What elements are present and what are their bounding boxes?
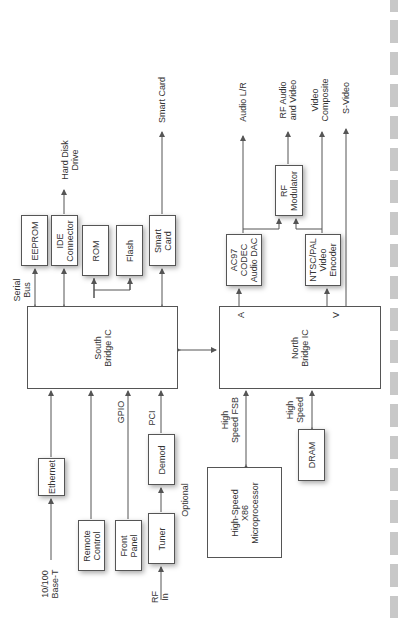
- dram-block: DRAM: [298, 429, 325, 481]
- remote-control-block: Remote Control: [78, 520, 105, 571]
- rf-modulator-block: RF Modulator: [275, 165, 303, 216]
- microprocessor-label: High-Speed X86 Microprocessor: [230, 482, 260, 544]
- ac97-codec-block: AC97 CODEC Audio DAC: [226, 234, 262, 286]
- ethernet-label: Ethernet: [47, 460, 57, 494]
- front-panel-block: Front Panel: [115, 520, 142, 571]
- demod-label: Demod: [157, 445, 167, 474]
- port-a-label: A: [236, 312, 246, 318]
- rom-block: ROM: [82, 225, 109, 276]
- ac97-codec-label: AC97 CODEC Audio DAC: [229, 238, 259, 283]
- ethernet-block: Ethernet: [38, 458, 65, 496]
- remote-control-label: Remote Control: [82, 530, 102, 562]
- rom-label: ROM: [91, 240, 101, 261]
- demod-block: Demod: [148, 434, 175, 485]
- south-bridge-label: South Bridge IC: [93, 329, 113, 367]
- front-panel-label: Front Panel: [119, 534, 139, 557]
- flash-block: Flash: [116, 225, 143, 276]
- high-speed-fsb-label: High Speed FSB: [220, 397, 240, 443]
- eeprom-block: EEPROM: [21, 215, 48, 266]
- rf-audio-video-label: RF Audio and Video: [278, 80, 298, 120]
- rf-in-label: RF In: [150, 591, 170, 603]
- optional-label: Optional: [180, 483, 190, 517]
- tuner-block: Tuner: [148, 513, 175, 564]
- north-bridge-label: North Bridge IC: [290, 329, 310, 367]
- smart-card-block: Smart Card: [149, 215, 176, 266]
- south-bridge-block: South Bridge IC: [27, 306, 178, 389]
- smart-card-output-label: Smart Card: [157, 77, 167, 123]
- microprocessor-block: High-Speed X86 Microprocessor: [207, 467, 282, 558]
- gpio-label: GPIO: [116, 401, 126, 424]
- high-speed-dram-label: High Speed: [285, 397, 305, 423]
- smart-card-label: Smart Card: [153, 228, 173, 252]
- video-composite-label: Video Composite: [310, 78, 330, 121]
- ide-connector-label: IDE Connector: [55, 220, 75, 262]
- s-video-label: S-Video: [341, 82, 351, 114]
- flash-label: Flash: [125, 239, 135, 261]
- serial-bus-label: Serial Bus: [12, 278, 32, 301]
- hard-disk-drive-label: Hard Disk Drive: [60, 140, 80, 180]
- tuner-label: Tuner: [157, 527, 167, 550]
- ntsc-pal-encoder-label: NTSC/PAL Video Encoder: [308, 238, 338, 281]
- ntsc-pal-encoder-block: NTSC/PAL Video Encoder: [305, 234, 341, 286]
- ide-connector-block: IDE Connector: [51, 215, 78, 266]
- dram-label: DRAM: [307, 442, 317, 469]
- audio-lr-label: Audio L/R: [238, 82, 248, 122]
- eeprom-label: EEPROM: [30, 221, 40, 260]
- port-v-label: V: [331, 312, 341, 318]
- rf-modulator-label: RF Modulator: [279, 170, 299, 210]
- pci-label: PCI: [147, 410, 157, 425]
- base-t-label: 10/100 Base-T: [40, 569, 60, 598]
- north-bridge-block: North Bridge IC: [219, 306, 381, 389]
